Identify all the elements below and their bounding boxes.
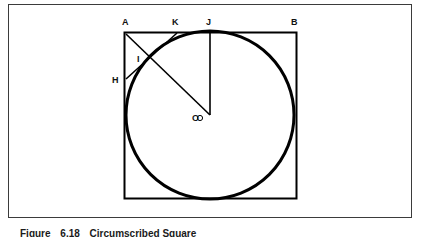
figure-page: A K J B H I O Figure 6.18 Circumscribed … — [0, 0, 422, 237]
vertex-label-a: A — [122, 18, 129, 27]
figure-border-frame — [8, 4, 412, 218]
vertex-label-b: B — [291, 18, 298, 27]
vertex-label-i: I — [137, 55, 140, 64]
caption-number: 6.18 — [60, 228, 79, 237]
vertex-label-o: O — [192, 114, 199, 123]
vertex-label-h: H — [112, 76, 119, 85]
figure-caption: Figure 6.18 Circumscribed Square — [20, 228, 410, 237]
vertex-label-k: K — [172, 18, 179, 27]
caption-title: Circumscribed Square — [90, 228, 197, 237]
vertex-label-j: J — [206, 18, 211, 27]
caption-label: Figure — [20, 228, 51, 237]
